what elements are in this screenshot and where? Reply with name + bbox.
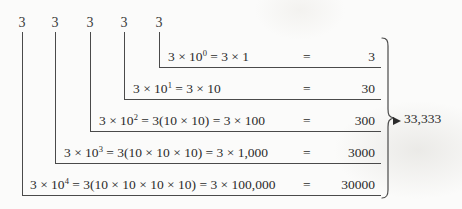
connector-line-horizontal-row3 [90,131,381,132]
sum-total-label: 33,333 [404,111,441,127]
place-value-digit: 3 [152,16,166,30]
equation-expression: 3 × 100 = 3 × 1 [168,47,249,67]
connector-line-vertical-row1 [159,32,160,68]
equation-result: 3 [295,47,375,67]
connector-line-horizontal-row4 [55,163,381,164]
equation-expression: 3 × 103 = 3(10 × 10 × 10) = 3 × 1,000 [64,143,268,163]
equation-expression: 3 × 101 = 3 × 10 [133,79,221,99]
equation-row: 3 × 104 = 3(10 × 10 × 10 × 10) = 3 × 100… [30,175,275,195]
equation-result: 30 [295,79,375,99]
equation-result: 300 [295,111,375,131]
equation-row: 3 × 100 = 3 × 1 [168,47,249,67]
connector-line-vertical-row2 [124,32,125,100]
place-value-digit: 3 [117,16,131,30]
connector-line-horizontal-row1 [159,67,381,68]
connector-line-horizontal-row2 [124,99,381,100]
connector-line-vertical-row5 [22,32,23,196]
connector-line-vertical-row3 [90,32,91,132]
equation-result: 3000 [295,143,375,163]
equation-row: 3 × 102 = 3(10 × 10) = 3 × 100 [99,111,265,131]
connector-line-vertical-row4 [55,32,56,164]
connector-line-horizontal-row5 [22,195,381,196]
equation-expression: 3 × 104 = 3(10 × 10 × 10 × 10) = 3 × 100… [30,175,275,195]
brace-arrow-icon [393,113,403,123]
equation-expression: 3 × 102 = 3(10 × 10) = 3 × 100 [99,111,265,131]
equation-result: 30000 [295,175,375,195]
place-value-digit: 3 [48,16,62,30]
equation-row: 3 × 103 = 3(10 × 10 × 10) = 3 × 1,000 [64,143,268,163]
equation-row: 3 × 101 = 3 × 10 [133,79,221,99]
place-value-digit: 3 [15,16,29,30]
powers-of-ten-figure: 3 3 3 3 3 3 × 100 = 3 × 1 = 3 3 × 101 = … [0,0,462,209]
place-value-digit: 3 [83,16,97,30]
